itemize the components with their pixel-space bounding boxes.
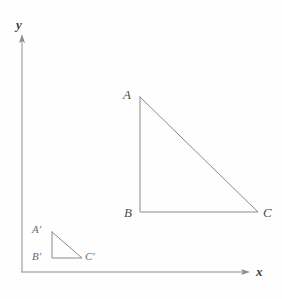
vertex-label-b: B — [124, 206, 132, 219]
y-axis-label: y — [16, 18, 22, 31]
vertex-label-b-prime: B′ — [32, 251, 41, 262]
vertex-label-a: A — [123, 88, 131, 101]
vertex-label-a-prime: A′ — [32, 224, 41, 235]
vertex-label-c: C — [263, 206, 272, 219]
triangle-abc-outline — [140, 97, 258, 212]
geometry-figure: y x A B C A′ B′ C′ — [0, 0, 282, 299]
triangle-a-prime-b-prime-c-prime-outline — [52, 232, 82, 258]
x-axis-label: x — [256, 265, 263, 278]
figure-canvas — [0, 0, 282, 299]
vertex-label-c-prime: C′ — [85, 251, 95, 262]
